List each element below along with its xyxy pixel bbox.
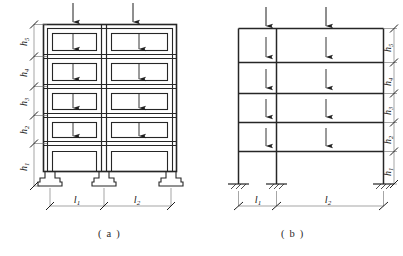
span-labels-a: l1 l2 bbox=[74, 194, 141, 207]
footings-a bbox=[38, 172, 183, 187]
structural-diagram-svg: h5 h4 h3 h2 h1 l1 l2 bbox=[0, 0, 403, 256]
figure-canvas: h5 h4 h3 h2 h1 l1 l2 bbox=[0, 0, 403, 256]
floor-slabs-a bbox=[44, 55, 177, 146]
dim-label-l2-a: l2 bbox=[134, 194, 141, 207]
building-envelope-a bbox=[44, 25, 177, 172]
storey-dimension-lines-a bbox=[34, 25, 47, 187]
roof-load-arrows-a bbox=[73, 3, 133, 22]
dim-label-l1-b: l1 bbox=[255, 194, 261, 207]
dim-label-h2-a: h2 bbox=[18, 125, 30, 134]
ground-storey-bays-a bbox=[53, 152, 168, 172]
frame-beams-b bbox=[239, 29, 384, 152]
span-labels-b: l1 l2 bbox=[255, 194, 332, 207]
central-wall-a bbox=[102, 25, 107, 172]
dim-label-h3-a: h3 bbox=[18, 97, 30, 106]
frame-columns-b bbox=[239, 29, 384, 185]
span-dimension-a bbox=[50, 188, 171, 206]
panel-b-frame: h5 h4 h3 h2 h1 l1 l2 bbox=[228, 7, 398, 210]
dim-label-h4-a: h4 bbox=[18, 68, 30, 77]
support-hatching-b bbox=[231, 184, 391, 189]
panel-caption-a: ( a ) bbox=[98, 228, 121, 239]
panel-a-elevation: h5 h4 h3 h2 h1 l1 l2 bbox=[18, 3, 183, 210]
dim-label-l1-a: l1 bbox=[74, 194, 80, 207]
dim-label-h5-a: h5 bbox=[18, 37, 30, 46]
dim-label-l2-b: l2 bbox=[325, 194, 332, 207]
panel-caption-b: ( b ) bbox=[281, 228, 305, 239]
roof-load-arrows-b bbox=[266, 7, 326, 26]
storey-height-labels-a: h5 h4 h3 h2 h1 bbox=[18, 37, 30, 171]
floor-load-arrows-b bbox=[266, 37, 326, 146]
room-panels-a bbox=[53, 34, 168, 138]
fixed-supports-b bbox=[228, 184, 394, 189]
dim-label-h1-a: h1 bbox=[18, 163, 30, 171]
